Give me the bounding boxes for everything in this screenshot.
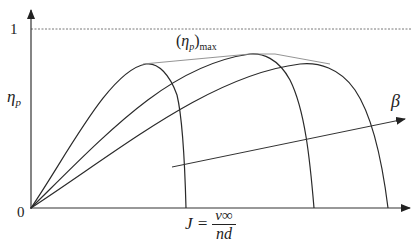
beta-label: β	[391, 92, 400, 110]
envelope-label: (ηp)max	[176, 33, 217, 52]
tick-label-one: 1	[10, 22, 18, 37]
origin-label: 0	[17, 205, 25, 220]
max-efficiency-envelope	[143, 54, 330, 64]
curve-beta-high	[31, 64, 388, 208]
beta-arrow	[172, 119, 405, 167]
envelope-max: max	[200, 41, 217, 52]
x-axis-numerator: v∞	[215, 208, 232, 223]
y-axis-sub: p	[15, 96, 21, 108]
curve-beta-low	[31, 64, 186, 208]
x-axis-denominator: nd	[216, 226, 232, 242]
x-axis-fraction: v∞ nd	[212, 208, 236, 242]
y-axis-label: ηp	[7, 88, 21, 108]
curve-beta-mid	[31, 54, 314, 208]
x-axis-label-lhs: J =	[185, 215, 208, 232]
